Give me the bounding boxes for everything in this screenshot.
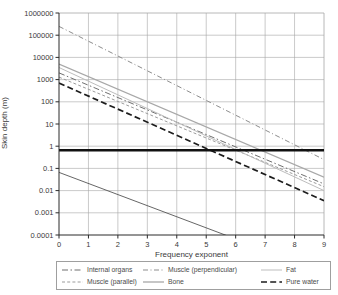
y-tick-label: 100 <box>41 97 54 106</box>
x-tick-label: 2 <box>116 240 120 249</box>
series-line-internal-organs <box>59 73 324 184</box>
legend-item-bone: Bone <box>143 277 261 287</box>
legend-line-sample-fat <box>261 266 282 274</box>
legend-line-sample-internal-organs <box>62 266 83 274</box>
y-tick-label: 1 <box>49 142 53 151</box>
legend-label: Bone <box>168 277 184 287</box>
legend-line-sample-pure-water <box>261 278 282 286</box>
x-tick-label: 3 <box>145 240 149 249</box>
x-tick-label: 0 <box>57 240 61 249</box>
x-tick-label: 9 <box>322 240 326 249</box>
legend-item-muscle-perpendicular: Muscle (perpendicular) <box>143 265 261 275</box>
y-tick-label: 10 <box>45 120 53 129</box>
x-axis-title: Frequency exponent <box>59 250 324 260</box>
y-tick-label: 0.0001 <box>31 231 54 240</box>
legend-label: Muscle (perpendicular) <box>168 265 237 275</box>
legend-label: Fat <box>286 265 296 275</box>
series-group <box>59 26 324 258</box>
y-axis-title: Skin depth (m) <box>0 58 12 188</box>
y-tick-label: 0.001 <box>35 208 54 217</box>
legend-item-fat: Fat <box>261 265 325 275</box>
x-tick-label: 7 <box>263 240 267 249</box>
series-line-pure-water <box>59 83 324 201</box>
legend-item-muscle-parallel: Muscle (parallel) <box>62 277 143 287</box>
x-tick-label: 6 <box>234 240 238 249</box>
legend-column: FatPure water <box>261 262 325 289</box>
series-line-fat <box>59 68 324 191</box>
y-tick-label: 0.01 <box>39 186 54 195</box>
legend-label: Pure water <box>286 277 319 287</box>
y-tick-label: 1000 <box>37 75 54 84</box>
series-line-bone <box>59 64 324 177</box>
legend-item-internal-organs: Internal organs <box>62 265 143 275</box>
reference-line-unlabeled-steep-line <box>59 172 324 258</box>
legend-line-sample-muscle-parallel <box>62 278 83 286</box>
y-tick-label: 100000 <box>28 31 53 40</box>
y-tick-label: 0.1 <box>43 164 53 173</box>
legend-line-sample-muscle-perpendicular <box>143 266 164 274</box>
legend-line-sample-bone <box>143 278 164 286</box>
x-tick-label: 4 <box>175 240 179 249</box>
y-tick-label: 1000000 <box>24 9 53 18</box>
y-tick-label: 10000 <box>33 53 54 62</box>
series-line-muscle-parallel <box>59 77 324 187</box>
legend-item-pure-water: Pure water <box>261 277 325 287</box>
plot-canvas: 10000001000001000010001001010.10.010.001… <box>0 0 338 258</box>
legend-label: Muscle (parallel) <box>87 277 137 287</box>
legend-box: Internal organsMuscle (parallel)Muscle (… <box>56 261 331 290</box>
legend-column: Internal organsMuscle (parallel) <box>57 262 143 289</box>
legend-column: Muscle (perpendicular)Bone <box>143 262 261 289</box>
skin-depth-chart: 10000001000001000010001001010.10.010.001… <box>0 0 338 295</box>
legend-label: Internal organs <box>87 265 132 275</box>
x-tick-label: 8 <box>292 240 296 249</box>
x-tick-label: 5 <box>204 240 208 249</box>
x-tick-label: 1 <box>86 240 90 249</box>
